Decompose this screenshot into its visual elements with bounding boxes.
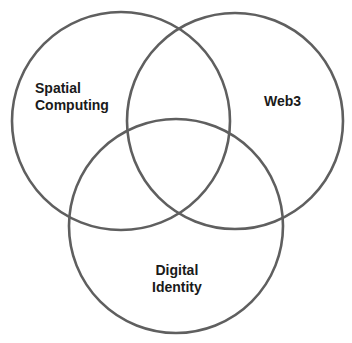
venn-diagram: Spatial Computing Web3 Digital Identity [0, 0, 352, 343]
circle-digital-identity [69, 119, 283, 333]
label-line: Computing [35, 97, 109, 114]
label-web3: Web3 [264, 93, 301, 110]
label-line: Digital [152, 262, 202, 279]
label-line: Identity [152, 279, 202, 296]
label-line: Spatial [35, 80, 109, 97]
label-line: Web3 [264, 93, 301, 110]
label-spatial-computing: Spatial Computing [35, 80, 109, 114]
label-digital-identity: Digital Identity [152, 262, 202, 296]
